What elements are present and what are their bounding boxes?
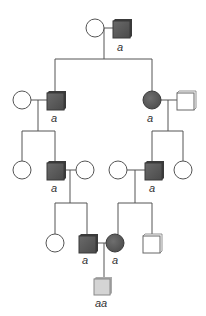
genotype-label-II2: a (51, 112, 57, 124)
male-affected-V1 (94, 277, 112, 295)
generation-1: a (86, 19, 132, 53)
genotype-label-IV3: a (112, 254, 118, 266)
male-unaffected-IV4 (143, 234, 162, 253)
genotype-label-IV2: a (82, 254, 88, 266)
female-unaffected-IV1 (46, 234, 64, 252)
female-unaffected-I1 (86, 19, 104, 37)
female-unaffected-III6 (174, 161, 192, 179)
male-carrier-I2 (113, 19, 132, 38)
male-carrier-II2 (47, 91, 66, 110)
male-unaffected-II4 (177, 91, 196, 110)
female-unaffected-III1 (13, 161, 31, 179)
female-carrier-II3 (143, 91, 161, 109)
male-carrier-III2 (47, 161, 66, 180)
pedigree-diagram: a a a a a (0, 0, 206, 316)
female-carrier-IV3 (106, 234, 124, 252)
genotype-label-I2: a (117, 41, 123, 53)
generation-5: aa (94, 277, 112, 309)
female-unaffected-III4 (109, 161, 127, 179)
genotype-label-V1: aa (95, 297, 107, 309)
female-unaffected-II1 (13, 91, 31, 109)
generation-2: a a (13, 91, 196, 124)
female-unaffected-III3 (76, 161, 94, 179)
genotype-label-II3: a (147, 112, 153, 124)
generation-3: a a (13, 161, 192, 194)
genotype-label-III5: a (149, 182, 155, 194)
genotype-label-III2: a (51, 182, 57, 194)
male-carrier-IV2 (79, 234, 98, 253)
male-carrier-III5 (145, 161, 164, 180)
